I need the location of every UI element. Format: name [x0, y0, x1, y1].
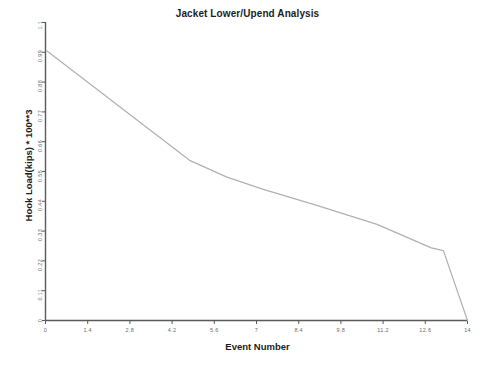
- y-tick-label: 0.55: [37, 170, 43, 198]
- x-tick-label: 12.6: [410, 327, 440, 333]
- y-tick-label: 0: [37, 319, 43, 347]
- x-tick-label: 8.4: [284, 327, 314, 333]
- y-tick-label: 0.33: [37, 229, 43, 257]
- data-series-line: [47, 51, 467, 321]
- y-tick-label: 0.44: [37, 199, 43, 227]
- y-tick-label: 0.22: [37, 259, 43, 287]
- y-tick-label: 0.99: [37, 50, 43, 78]
- y-tick-label: 0.66: [37, 140, 43, 168]
- x-tick-label: 2.8: [115, 327, 145, 333]
- y-tick-label: 0.11: [37, 289, 43, 317]
- plot-area: [0, 0, 495, 368]
- y-tick-label: 1.1: [37, 21, 43, 49]
- x-tick-label: 9.8: [326, 327, 356, 333]
- x-tick-label: 7: [242, 327, 272, 333]
- x-tick-label: 0: [31, 327, 61, 333]
- axes-group: [45, 22, 468, 321]
- x-tick-label: 11.2: [368, 327, 398, 333]
- x-tick-label: 14: [453, 327, 483, 333]
- chart-container: Jacket Lower/Upend Analysis Hook Load(ki…: [0, 0, 495, 368]
- y-tick-label: 0.88: [37, 80, 43, 108]
- x-tick-label: 1.4: [73, 327, 103, 333]
- x-tick-label: 5.6: [199, 327, 229, 333]
- y-tick-label: 0.77: [37, 110, 43, 138]
- x-tick-label: 4.2: [157, 327, 187, 333]
